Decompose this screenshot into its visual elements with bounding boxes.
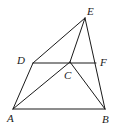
point-label-d: D (16, 54, 25, 66)
segments-group (13, 18, 105, 109)
point-label-b: B (102, 113, 109, 125)
segment-ac (13, 62, 70, 109)
point-label-e: E (86, 5, 94, 17)
geometry-diagram: A B C D E F (0, 0, 116, 130)
point-label-f: F (99, 56, 107, 68)
point-label-c: C (64, 69, 72, 81)
segment-ad (13, 63, 33, 109)
point-label-a: A (6, 112, 14, 124)
labels-group: A B C D E F (6, 5, 109, 125)
